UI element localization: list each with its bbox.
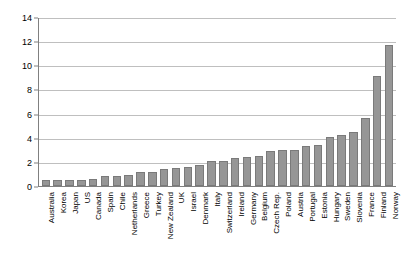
bar-slot xyxy=(253,18,265,186)
bar-slot xyxy=(241,18,253,186)
x-axis-slot: Czech Rep. xyxy=(264,190,276,270)
bar xyxy=(195,165,204,186)
x-axis-slot: Canada xyxy=(86,190,98,270)
x-axis-slot: Korea xyxy=(51,190,63,270)
x-axis-slot: Israel xyxy=(181,190,193,270)
x-axis-slot: Switzerland xyxy=(217,190,229,270)
bar-slot xyxy=(217,18,229,186)
bar-slot xyxy=(229,18,241,186)
bar xyxy=(314,145,323,186)
bar-slot xyxy=(371,18,383,186)
bar-slot xyxy=(135,18,147,186)
x-axis-slot: Ireland xyxy=(229,190,241,270)
bar-slot xyxy=(52,18,64,186)
bar xyxy=(65,180,74,186)
bar xyxy=(113,176,122,186)
bar-series xyxy=(39,18,396,186)
x-axis-slot: Finland xyxy=(371,190,383,270)
bar-slot xyxy=(206,18,218,186)
plot-area xyxy=(38,18,396,187)
bar xyxy=(255,156,264,186)
x-axis-slot: Austria xyxy=(288,190,300,270)
x-axis-slot: UK xyxy=(169,190,181,270)
bar-slot xyxy=(182,18,194,186)
bar xyxy=(77,180,86,186)
x-axis-slot: Estonia xyxy=(312,190,324,270)
y-axis-tick-label: 10 xyxy=(22,62,32,71)
bar xyxy=(326,137,335,186)
y-axis-tick-label: 6 xyxy=(27,110,32,119)
bar xyxy=(42,180,51,186)
bar xyxy=(290,150,299,186)
bar xyxy=(302,146,311,186)
bar-slot xyxy=(312,18,324,186)
bar-slot xyxy=(111,18,123,186)
x-axis-slot: France xyxy=(359,190,371,270)
bar-slot xyxy=(146,18,158,186)
x-axis-slot: Belgium xyxy=(252,190,264,270)
bar-slot xyxy=(170,18,182,186)
x-axis-slot: New Zealand xyxy=(158,190,170,270)
y-axis-tick-label: 12 xyxy=(22,38,32,47)
bar xyxy=(385,45,394,186)
y-axis-tick-label: 8 xyxy=(27,86,32,95)
bar xyxy=(148,172,157,186)
x-axis-slot: Sweden xyxy=(335,190,347,270)
bar xyxy=(337,135,346,186)
bar-slot xyxy=(288,18,300,186)
x-axis-slot: Portugal xyxy=(300,190,312,270)
bar-slot xyxy=(265,18,277,186)
bar-slot xyxy=(40,18,52,186)
x-axis-slot: Poland xyxy=(276,190,288,270)
bar xyxy=(53,180,62,186)
bar xyxy=(101,176,110,186)
x-axis-slot: Netherlands xyxy=(122,190,134,270)
bar xyxy=(349,132,358,186)
y-axis-tick-label: 0 xyxy=(27,183,32,192)
bar-slot xyxy=(359,18,371,186)
bar xyxy=(219,161,228,186)
x-axis-slot: Hungary xyxy=(324,190,336,270)
bar-slot xyxy=(87,18,99,186)
x-axis-slot: Spain xyxy=(98,190,110,270)
bar xyxy=(361,118,370,186)
bar xyxy=(207,161,216,186)
x-axis-slot: Australia xyxy=(39,190,51,270)
bar xyxy=(243,157,252,186)
bar-slot xyxy=(123,18,135,186)
x-axis-slot: Greece xyxy=(134,190,146,270)
bar xyxy=(124,175,133,186)
x-axis-slot: Germany xyxy=(241,190,253,270)
bar xyxy=(89,179,98,186)
bar-slot xyxy=(383,18,395,186)
bar xyxy=(172,168,181,186)
bar xyxy=(278,150,287,186)
bar-slot xyxy=(277,18,289,186)
bar-slot xyxy=(64,18,76,186)
y-axis-tick-label: 14 xyxy=(22,14,32,23)
bar-slot xyxy=(75,18,87,186)
x-axis: AustraliaKoreaJapanUSCanadaSpainChileNet… xyxy=(38,190,396,270)
x-axis-slot: Italy xyxy=(205,190,217,270)
bar-slot xyxy=(348,18,360,186)
bar xyxy=(373,76,382,186)
bar-slot xyxy=(194,18,206,186)
bar xyxy=(160,169,169,186)
x-axis-tick-label: Norway xyxy=(392,192,400,219)
bar-slot xyxy=(158,18,170,186)
x-axis-slot: Turkey xyxy=(146,190,158,270)
bar-slot xyxy=(336,18,348,186)
y-axis-tick-label: 4 xyxy=(27,134,32,143)
bar-chart: 02468101214 AustraliaKoreaJapanUSCanadaS… xyxy=(0,0,403,272)
x-axis-slot: Slovenia xyxy=(347,190,359,270)
bar xyxy=(231,158,240,186)
bar xyxy=(136,172,145,186)
bar-slot xyxy=(324,18,336,186)
bar-slot xyxy=(99,18,111,186)
bar xyxy=(184,167,193,186)
x-axis-slot: US xyxy=(75,190,87,270)
x-axis-slot: Denmark xyxy=(193,190,205,270)
x-axis-slot: Chile xyxy=(110,190,122,270)
y-axis-tick-label: 2 xyxy=(27,158,32,167)
y-axis: 02468101214 xyxy=(0,0,38,187)
